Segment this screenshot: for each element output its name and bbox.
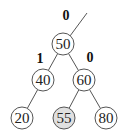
node-label: 80 — [99, 110, 114, 126]
node-label: 40 — [36, 72, 51, 88]
tree-nodes: 504060205580 — [11, 33, 117, 129]
tree-diagram: 504060205580 010 — [0, 0, 127, 140]
tree-node: 55 — [53, 107, 75, 129]
balance-factor-label: 0 — [87, 50, 94, 65]
tree-edge — [48, 54, 57, 71]
tree-node: 40 — [32, 69, 54, 91]
node-label: 60 — [77, 72, 92, 88]
parent-edge — [70, 13, 87, 36]
balance-factor-label: 1 — [37, 51, 44, 66]
tree-svg: 504060205580 010 — [0, 0, 127, 140]
node-label: 20 — [15, 110, 30, 126]
tree-edge — [27, 90, 37, 109]
node-label: 55 — [57, 110, 72, 126]
tree-node: 60 — [73, 69, 95, 91]
balance-factor-label: 0 — [63, 8, 70, 23]
tree-edge — [69, 90, 79, 109]
tree-node: 20 — [11, 107, 33, 129]
tree-edge — [69, 54, 79, 71]
tree-edge — [90, 90, 101, 109]
tree-node: 80 — [95, 107, 117, 129]
tree-node: 50 — [52, 33, 74, 55]
node-label: 50 — [56, 36, 71, 52]
